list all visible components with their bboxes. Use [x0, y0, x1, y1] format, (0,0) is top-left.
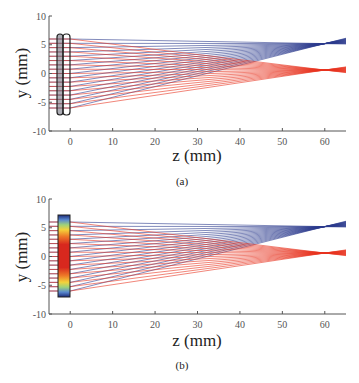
x-tick-label: 50	[277, 136, 287, 147]
y-tick-label: 10	[36, 11, 46, 22]
x-tick-label: 60	[320, 136, 330, 147]
caption-a: (a)	[176, 175, 189, 188]
y-axis-label-a: y (mm)	[12, 48, 31, 99]
y-tick-label: -5	[38, 97, 46, 108]
panel-a: -10-505100102030405060 z (mm) y (mm) (a)	[12, 11, 346, 189]
y-tick-label: 10	[36, 194, 46, 205]
x-tick-label: 40	[235, 319, 245, 330]
x-tick-label: 30	[193, 319, 203, 330]
y-tick-label: -10	[33, 309, 46, 320]
figure: -10-505100102030405060 z (mm) y (mm) (a)	[0, 0, 359, 383]
x-tick-label: 60	[320, 319, 330, 330]
x-tick-label: 20	[150, 319, 160, 330]
ray-traces-b	[49, 221, 346, 291]
x-tick-label: 20	[150, 136, 160, 147]
caption-b: (b)	[176, 359, 189, 372]
x-axis-label-a: z (mm)	[172, 146, 222, 165]
y-tick-label: -5	[38, 280, 46, 291]
x-tick-label: 10	[108, 136, 118, 147]
x-tick-label: 10	[108, 319, 118, 330]
x-tick-label: 50	[277, 319, 287, 330]
ray-traces-a	[49, 38, 346, 108]
x-tick-label: 0	[68, 319, 73, 330]
y-axis-label-b: y (mm)	[12, 232, 31, 283]
y-tick-label: 5	[41, 39, 46, 50]
lens-outline-a	[57, 34, 70, 115]
y-tick-label: -10	[33, 126, 46, 137]
panel-b: -10-505100102030405060 z (mm) y (mm) (b)	[12, 194, 346, 373]
x-axis-label-b: z (mm)	[172, 331, 222, 350]
colormap-element-b	[58, 215, 70, 297]
x-tick-label: 0	[68, 136, 73, 147]
y-tick-label: 5	[41, 222, 46, 233]
x-tick-label: 40	[235, 136, 245, 147]
y-tick-label: 0	[41, 251, 46, 262]
y-tick-label: 0	[41, 68, 46, 79]
